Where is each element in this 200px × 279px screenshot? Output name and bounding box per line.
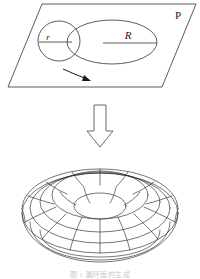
torus-hole-meridian [60, 192, 76, 205]
torus-generation-figure: P R r [0, 0, 200, 279]
torus-meridian [46, 182, 67, 194]
transform-arrow-group [87, 105, 113, 147]
revolution-radius-label: R [124, 29, 132, 41]
generating-radius-label: r [46, 32, 50, 42]
generating-circle-group: r [38, 21, 80, 61]
plane-parallelogram [8, 4, 196, 87]
torus-meridian [70, 217, 82, 250]
torus-hole-meridian [124, 192, 140, 205]
torus-meridian [134, 214, 158, 239]
rotation-arrow-group [63, 69, 91, 81]
rotation-arrowhead-icon [82, 75, 91, 81]
torus-meridian [118, 217, 130, 250]
torus-meridian [42, 214, 66, 239]
down-arrow-icon [87, 105, 113, 147]
figure-caption: 图 1 圆环面的生成 [0, 271, 200, 279]
torus-meridian [133, 182, 154, 194]
revolution-ellipse-group: R [67, 20, 157, 64]
revolution-ellipse [67, 20, 157, 64]
torus-group [22, 169, 178, 262]
plane-label: P [175, 9, 181, 21]
plane-group: P [8, 4, 196, 87]
generating-circle [38, 21, 80, 61]
torus-hole-inner [74, 193, 126, 219]
